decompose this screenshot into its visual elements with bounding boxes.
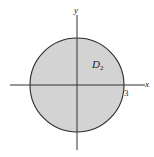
region-label-main: D [91, 58, 100, 70]
disk-region-diagram: x y 3 D2 [0, 0, 154, 157]
x-axis-label: x [144, 79, 149, 89]
y-axis-label: y [73, 5, 78, 15]
radius-tick-label: 3 [124, 88, 129, 98]
region-label-subscript: 2 [100, 64, 104, 72]
